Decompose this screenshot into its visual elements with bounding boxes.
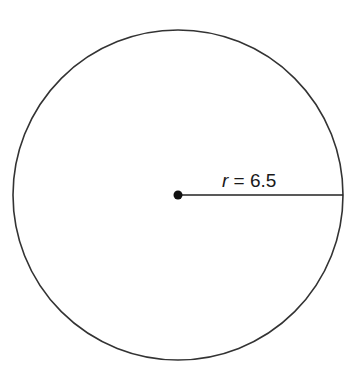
circle-diagram: r = 6.5 (0, 0, 346, 378)
center-point (174, 191, 183, 200)
radius-equals: = (228, 170, 250, 191)
radius-value: 6.5 (250, 170, 276, 191)
radius-label: r = 6.5 (222, 170, 276, 191)
